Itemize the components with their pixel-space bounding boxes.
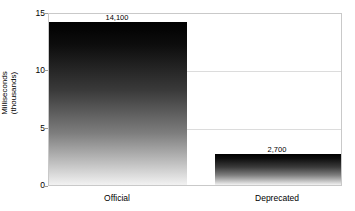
y-tick-label-15: 15	[19, 9, 45, 18]
bar-deprecated[interactable]	[215, 154, 341, 185]
category-label-official: Official	[48, 194, 186, 203]
y-axis-title-line1: Milliseconds	[0, 71, 9, 115]
bar-official[interactable]	[49, 22, 187, 185]
bar-value-official: 14,100	[48, 14, 186, 22]
bar-chart: Milliseconds (thousands) 15 10 5 0 14,10…	[0, 0, 355, 211]
y-tick-label-10: 10	[19, 66, 45, 75]
y-axis-title: Milliseconds (thousands)	[0, 0, 18, 186]
y-tick-mark-0	[44, 186, 48, 187]
y-axis-title-line2: (thousands)	[9, 71, 18, 115]
plot-area	[48, 13, 342, 186]
y-tick-label-0: 0	[19, 181, 45, 190]
y-tick-label-5: 5	[19, 124, 45, 133]
bar-value-deprecated: 2,700	[214, 146, 340, 154]
category-label-deprecated: Deprecated	[214, 194, 340, 203]
